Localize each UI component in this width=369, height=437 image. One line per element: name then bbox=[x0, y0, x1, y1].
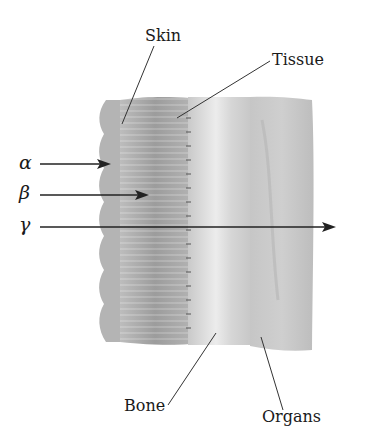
gamma-label: γ bbox=[19, 215, 30, 234]
beta-label: β bbox=[19, 183, 30, 202]
bone-layer bbox=[186, 97, 250, 345]
radiation-diagram: Skin Tissue Bone Organs α β γ bbox=[0, 0, 369, 437]
skin-label: Skin bbox=[145, 28, 181, 44]
tissue-layer bbox=[120, 97, 190, 345]
organs-label: Organs bbox=[262, 409, 321, 425]
alpha-label: α bbox=[19, 153, 32, 172]
organs-layer bbox=[250, 97, 314, 351]
tissue-label: Tissue bbox=[272, 52, 324, 68]
bone-label: Bone bbox=[124, 398, 165, 414]
alpha-ray bbox=[40, 159, 111, 169]
